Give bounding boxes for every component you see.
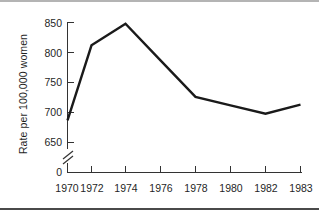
axis-break-marker	[63, 151, 73, 164]
bottom-divider-rule	[0, 208, 319, 210]
x-tick-label-1980: 1980	[213, 182, 249, 194]
x-tick-label-1972: 1972	[74, 182, 110, 194]
x-axis-ticks	[68, 166, 301, 173]
x-tick-label-1983: 1983	[283, 182, 319, 194]
data-series-line	[68, 24, 301, 121]
x-tick-label-1982: 1982	[248, 182, 284, 194]
chart-figure: Rate per 100,000 women 850 800 750 700 6…	[0, 0, 319, 215]
x-tick-label-1978: 1978	[178, 182, 214, 194]
y-axis-ticks	[68, 23, 75, 143]
axis-lines	[67, 22, 302, 173]
x-tick-label-1974: 1974	[108, 182, 144, 194]
x-tick-label-1976: 1976	[143, 182, 179, 194]
